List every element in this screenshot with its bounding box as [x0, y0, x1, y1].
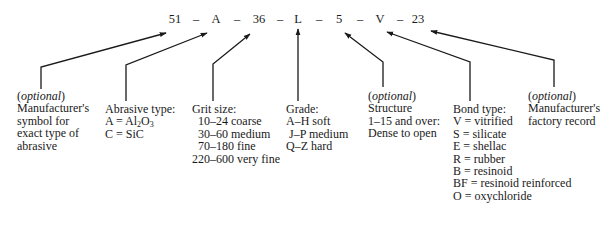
arrow-abrasive-type: [126, 33, 207, 101]
description-line: factory record: [528, 115, 600, 127]
description-line: Manufacturer's: [528, 102, 600, 114]
arrow-manufacturer-symbol: [41, 33, 166, 89]
bond-option: BF = resinoid reinforced: [453, 177, 571, 189]
description-line: Dense to open: [368, 127, 440, 139]
bond-option: O = oxychloride: [453, 190, 571, 202]
factory-record-block: (optional) Manufacturer's factory record: [528, 90, 600, 127]
grade-range: Q–Z hard: [286, 140, 348, 152]
structure-block: (optional) Structure 1–15 and over: Dens…: [368, 90, 440, 140]
grade-range: A–H soft: [286, 115, 348, 127]
abrasive-silicon-carbide: C = SiC: [105, 128, 175, 140]
abrasive-aluminum-oxide: A = Al2O3: [105, 115, 175, 127]
arrow-grit-size: [213, 34, 250, 101]
description-line: abrasive: [17, 140, 89, 152]
grit-range: 70–180 fine: [192, 140, 280, 152]
grit-range: 10–24 coarse: [192, 115, 280, 127]
description-line: Structure: [368, 102, 440, 114]
grade-block: Grade: A–H soft J–P medium Q–Z hard: [286, 103, 348, 153]
description-line: exact type of: [17, 127, 89, 139]
arrow-structure: [345, 33, 383, 87]
bond-option: E = shellac: [453, 140, 571, 152]
arrow-factory-record: [431, 31, 554, 87]
grit-size-block: Grit size: 10–24 coarse 30–60 medium 70–…: [192, 103, 280, 165]
description-line: Manufacturer's: [17, 102, 89, 114]
grit-range: 220–600 very fine: [192, 153, 280, 165]
abrasive-type-block: Abrasive type: A = Al2O3 C = SiC: [105, 103, 175, 140]
manufacturer-symbol-block: (optional) Manufacturer's symbol for exa…: [17, 90, 89, 152]
